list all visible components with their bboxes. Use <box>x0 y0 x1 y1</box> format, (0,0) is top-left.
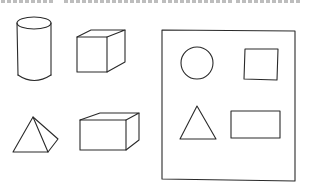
rectangle-shape <box>231 111 280 138</box>
cylinder-shape <box>17 17 51 81</box>
square-shape <box>244 49 278 80</box>
shapes-figure <box>0 0 311 192</box>
triangle-shape <box>180 106 216 139</box>
shapes-frame <box>162 30 295 181</box>
cube-shape <box>77 30 125 72</box>
pyramid-shape <box>13 117 58 152</box>
rectangular-prism-shape <box>80 113 139 150</box>
circle-shape <box>181 47 213 79</box>
